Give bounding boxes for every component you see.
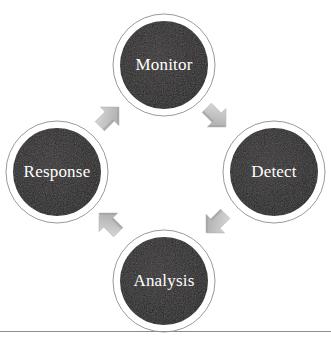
- node-analysis-label: Analysis: [133, 271, 194, 290]
- arrow-analysis-to-response: [90, 204, 127, 241]
- node-detect-label: Detect: [251, 162, 297, 181]
- node-monitor-label: Monitor: [135, 55, 192, 74]
- node-monitor: Monitor: [113, 14, 215, 116]
- node-response-label: Response: [24, 162, 91, 181]
- node-analysis: Analysis: [113, 230, 215, 332]
- node-response: Response: [6, 121, 108, 223]
- arrow-response-to-monitor: [91, 98, 128, 135]
- cycle-diagram: Monitor Detect Analysis Response: [0, 0, 331, 339]
- arrow-detect-to-analysis: [197, 205, 234, 242]
- arrow-monitor-to-detect: [198, 99, 235, 136]
- arrow-group: [90, 98, 235, 242]
- node-detect: Detect: [223, 121, 325, 223]
